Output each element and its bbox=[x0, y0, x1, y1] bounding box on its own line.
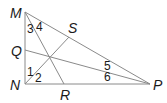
angle-label-4: 4 bbox=[36, 20, 43, 34]
vertex-label-R: R bbox=[60, 87, 70, 103]
vertex-label-S: S bbox=[68, 20, 78, 36]
vertex-label-Q: Q bbox=[11, 43, 22, 59]
geometry-diagram: M Q N S R P 3 4 1 2 5 6 bbox=[0, 0, 167, 103]
vertex-label-N: N bbox=[10, 77, 21, 93]
segment-MP bbox=[25, 12, 150, 84]
vertex-label-P: P bbox=[153, 77, 163, 93]
angle-label-6: 6 bbox=[104, 70, 111, 84]
angle-label-1: 1 bbox=[27, 65, 34, 79]
angle-label-3: 3 bbox=[27, 22, 34, 36]
segment-QP bbox=[25, 50, 150, 84]
angle-label-2: 2 bbox=[35, 71, 42, 85]
vertex-label-M: M bbox=[10, 5, 22, 21]
